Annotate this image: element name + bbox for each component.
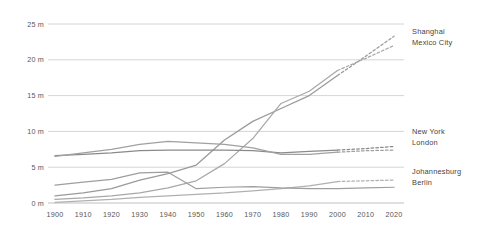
x-tick-label: 1900 [47, 210, 64, 219]
x-tick-label: 1920 [103, 210, 120, 219]
series-line-berlin [55, 172, 394, 188]
series-line-mexico-city [55, 71, 338, 200]
series-label-mexico-city: Mexico City [412, 38, 452, 47]
x-tick-label: 1940 [160, 210, 177, 219]
series-label-berlin: Berlin [412, 178, 432, 187]
population-line-chart: 0 m5 m10 m15 m20 m25 m 19001910192019301… [0, 0, 479, 232]
x-tick-label: 1990 [301, 210, 318, 219]
x-tick-label: 1960 [216, 210, 233, 219]
series-label-johannesburg: Johannesburg [412, 167, 461, 176]
series-projection-london [338, 150, 395, 152]
x-tick-label: 2010 [357, 210, 374, 219]
data-series-lines [55, 36, 394, 202]
series-projection-shanghai [338, 36, 395, 75]
series-projection-johannesburg [338, 180, 395, 181]
y-tick-label: 0 m [31, 199, 44, 208]
x-axis-tick-labels: 1900191019201930194019501960197019801990… [47, 210, 403, 219]
y-tick-label: 25 m [27, 20, 44, 29]
y-tick-label: 5 m [31, 163, 44, 172]
x-tick-label: 1980 [273, 210, 290, 219]
y-tick-label: 10 m [27, 127, 44, 136]
series-projection-new-york [338, 146, 395, 150]
series-label-shanghai: Shanghai [412, 27, 445, 36]
x-tick-label: 1950 [188, 210, 205, 219]
x-tick-label: 2000 [329, 210, 346, 219]
series-projection-mexico-city [338, 45, 395, 70]
x-tick-label: 1910 [75, 210, 92, 219]
y-tick-label: 15 m [27, 91, 44, 100]
y-axis-tick-labels: 0 m5 m10 m15 m20 m25 m [27, 20, 44, 208]
series-line-johannesburg [55, 182, 338, 203]
x-tick-label: 1970 [244, 210, 261, 219]
x-tick-label: 1930 [131, 210, 148, 219]
series-labels: ShanghaiMexico CityNew YorkLondonJohanne… [412, 27, 461, 187]
series-line-shanghai [55, 76, 338, 196]
y-tick-label: 20 m [27, 55, 44, 64]
series-label-london: London [412, 138, 438, 147]
x-tick-label: 2020 [386, 210, 403, 219]
chart-canvas: 0 m5 m10 m15 m20 m25 m 19001910192019301… [0, 0, 479, 232]
series-label-new-york: New York [412, 127, 445, 136]
gridlines [48, 24, 404, 203]
